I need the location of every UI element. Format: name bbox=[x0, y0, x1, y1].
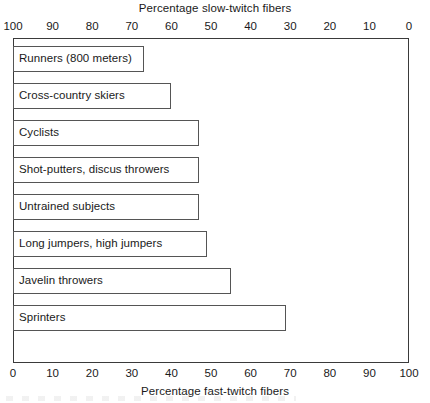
top-axis-tick-labels: 1009080706050403020100 bbox=[0, 19, 430, 33]
top-tick-80: 80 bbox=[86, 19, 99, 33]
top-tick-70: 70 bbox=[125, 19, 138, 33]
top-tick-50: 50 bbox=[205, 19, 218, 33]
bar-label: Shot-putters, discus throwers bbox=[14, 164, 169, 176]
bottom-tick-60: 60 bbox=[244, 366, 257, 380]
bar-row: Runners (800 meters) bbox=[13, 46, 144, 72]
top-tick-20: 20 bbox=[323, 19, 336, 33]
top-tick-10: 10 bbox=[363, 19, 376, 33]
scan-artifact bbox=[6, 396, 296, 401]
top-tick-100: 100 bbox=[3, 19, 22, 33]
bottom-tick-10: 10 bbox=[46, 366, 59, 380]
bar-row: Long jumpers, high jumpers bbox=[13, 231, 207, 257]
bar-label: Untrained subjects bbox=[14, 201, 115, 213]
bar-chart: Percentage slow-twitch fibers 1009080706… bbox=[0, 0, 430, 403]
bottom-axis-tick-labels: 0102030405060708090100 bbox=[0, 366, 430, 380]
bar-label: Javelin throwers bbox=[14, 275, 103, 287]
bottom-tick-50: 50 bbox=[205, 366, 218, 380]
bottom-tick-100: 100 bbox=[399, 366, 418, 380]
bottom-tick-80: 80 bbox=[323, 366, 336, 380]
bar-label: Sprinters bbox=[14, 312, 65, 324]
bottom-tick-20: 20 bbox=[86, 366, 99, 380]
bar-row: Javelin throwers bbox=[13, 268, 231, 294]
bottom-tick-40: 40 bbox=[165, 366, 178, 380]
bars-layer: Runners (800 meters)Cross-country skiers… bbox=[13, 38, 409, 363]
bar-row: Cyclists bbox=[13, 120, 199, 146]
bar-row: Cross-country skiers bbox=[13, 83, 171, 109]
bottom-tick-30: 30 bbox=[125, 366, 138, 380]
top-tick-0: 0 bbox=[406, 19, 412, 33]
bar-label: Long jumpers, high jumpers bbox=[14, 238, 162, 250]
bar-label: Cyclists bbox=[14, 127, 59, 139]
top-tick-60: 60 bbox=[165, 19, 178, 33]
top-tick-90: 90 bbox=[46, 19, 59, 33]
bar-label: Runners (800 meters) bbox=[14, 53, 132, 65]
bar-row: Shot-putters, discus throwers bbox=[13, 157, 199, 183]
bottom-tick-0: 0 bbox=[10, 366, 16, 380]
top-tick-40: 40 bbox=[244, 19, 257, 33]
bar-row: Untrained subjects bbox=[13, 194, 199, 220]
bottom-tick-70: 70 bbox=[284, 366, 297, 380]
bar-label: Cross-country skiers bbox=[14, 90, 125, 102]
top-tick-30: 30 bbox=[284, 19, 297, 33]
bottom-tick-90: 90 bbox=[363, 366, 376, 380]
bar-row: Sprinters bbox=[13, 305, 286, 331]
top-axis-title: Percentage slow-twitch fibers bbox=[0, 2, 430, 14]
